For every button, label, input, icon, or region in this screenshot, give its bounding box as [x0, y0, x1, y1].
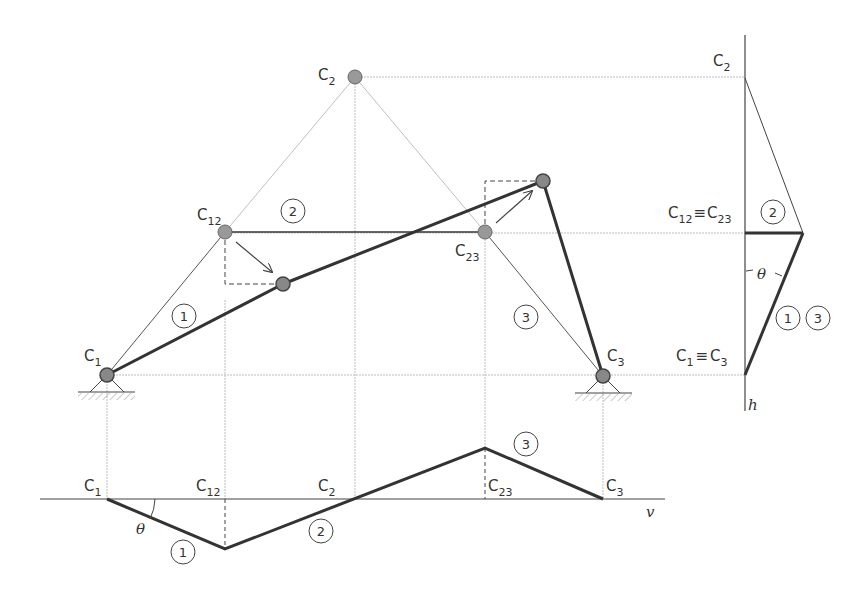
h-label-c2: C2 — [713, 52, 730, 74]
v-link-number-1: 1 — [171, 540, 195, 564]
v-label-c23: C23 — [488, 477, 512, 499]
velocity-arrow-2 — [496, 191, 532, 223]
joint-link2-link3 — [536, 174, 550, 188]
label-c3: C3 — [607, 347, 624, 369]
h-link-1-3 — [745, 233, 803, 375]
joint-link1-link2 — [276, 277, 290, 291]
joint-c1 — [100, 368, 114, 382]
joint-c3 — [596, 369, 610, 383]
velocity-arrow-1 — [236, 242, 272, 272]
label-c12: C12 — [197, 206, 221, 228]
v-link-number-3: 3 — [514, 432, 538, 456]
svg-text:2: 2 — [769, 205, 777, 220]
v-theta-label: θ — [136, 520, 145, 538]
h-theta-label: θ — [757, 265, 766, 283]
v-label-c2: C2 — [318, 477, 335, 499]
h-axis-label: h — [748, 396, 758, 414]
h-link-number-1: 1 — [776, 306, 800, 330]
construction-lines — [107, 77, 745, 499]
v-link-number-2: 2 — [309, 519, 333, 543]
svg-text:3: 3 — [814, 311, 822, 326]
h-theta-tick-left — [746, 270, 753, 271]
v-label-c3: C3 — [606, 477, 623, 499]
node-c23 — [478, 225, 492, 239]
svg-text:2: 2 — [317, 524, 325, 539]
v-axis-label: v — [646, 503, 655, 521]
h-link-number-2: 2 — [761, 200, 785, 224]
svg-text:3: 3 — [522, 437, 530, 452]
v-label-c12: C12 — [196, 477, 220, 499]
h-theta-tick-right — [775, 273, 782, 276]
label-c2: C2 — [318, 66, 335, 88]
label-c1: C1 — [84, 347, 101, 369]
node-c2 — [348, 70, 362, 84]
h-label-c12-c23: C12≡C23 — [668, 204, 732, 226]
v-label-c1: C1 — [84, 477, 101, 499]
diagram-canvas: C2 C12 C23 C1 C3 1 2 3 θ v C1 C12 C2 C23… — [0, 0, 867, 589]
link-number-2: 2 — [281, 199, 305, 223]
svg-text:3: 3 — [522, 310, 530, 325]
label-c23: C23 — [455, 242, 479, 264]
svg-text:2: 2 — [289, 204, 297, 219]
svg-text:1: 1 — [179, 545, 187, 560]
h-link-number-3: 3 — [806, 306, 830, 330]
h-label-c1-c3: C1≡C3 — [676, 347, 728, 369]
link-number-1: 1 — [172, 304, 196, 328]
svg-text:1: 1 — [180, 309, 188, 324]
instant-centre-lines — [225, 77, 485, 232]
link-number-3: 3 — [514, 305, 538, 329]
svg-text:1: 1 — [784, 311, 792, 326]
